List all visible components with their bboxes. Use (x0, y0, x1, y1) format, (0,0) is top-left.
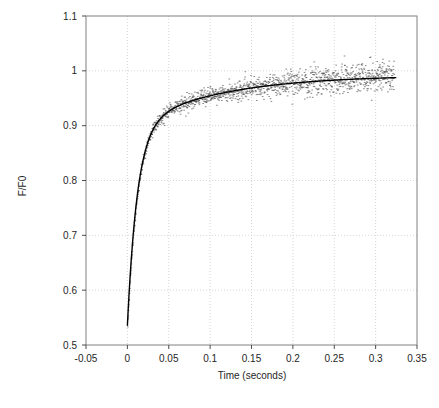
x-tick-label: 0.2 (286, 353, 300, 364)
y-tick-label: 1 (71, 65, 77, 76)
x-tick-label: 0.3 (369, 353, 383, 364)
x-axis-title: Time (seconds) (218, 370, 287, 381)
y-tick-label: 0.7 (63, 230, 77, 241)
y-tick-label: 0.6 (63, 285, 77, 296)
y-axis-title: F/F0 (17, 175, 28, 196)
chart-container: -0.0500.050.10.150.20.250.30.35 0.50.60.… (0, 0, 439, 408)
x-tick-label: 0.25 (325, 353, 345, 364)
y-tick-label: 1.1 (63, 11, 77, 22)
scatter-plot: -0.0500.050.10.150.20.250.30.35 0.50.60.… (0, 0, 439, 408)
x-tick-label: 0.35 (407, 353, 427, 364)
y-tick-label: 0.5 (63, 340, 77, 351)
x-tick-label: 0.15 (242, 353, 262, 364)
x-tick-label: 0 (125, 353, 131, 364)
y-tick-label: 0.9 (63, 120, 77, 131)
x-tick-label: 0.1 (203, 353, 217, 364)
x-tick-label: -0.05 (75, 353, 98, 364)
x-axis-tick-labels: -0.0500.050.10.150.20.250.30.35 (75, 353, 428, 364)
y-tick-label: 0.8 (63, 175, 77, 186)
x-tick-label: 0.05 (159, 353, 179, 364)
